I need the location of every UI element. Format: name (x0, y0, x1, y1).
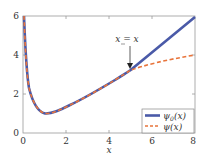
y-tick-2: 2 (13, 89, 19, 99)
y-tick-6: 6 (13, 11, 19, 21)
x-tick-0: 0 (20, 136, 26, 146)
legend-label-psi0: ψ0(x) (163, 111, 186, 122)
series-psi-line (24, 16, 195, 114)
series-psi0-line (24, 16, 195, 114)
legend: ψ0(x) ψ(x) (142, 109, 194, 133)
x-axis-label: x (106, 145, 111, 155)
y-tick-4: 4 (13, 50, 19, 60)
annotation-label: x = x (115, 34, 138, 44)
y-tick-0: 0 (13, 128, 19, 138)
line-chart: 0 2 4 6 0 2 4 6 8 x x = x ψ0(x) ψ(x) (0, 0, 209, 162)
x-tick-6: 6 (149, 136, 155, 146)
legend-label-psi: ψ(x) (163, 122, 183, 132)
x-tick-8: 8 (190, 136, 196, 146)
x-tick-2: 2 (63, 136, 69, 146)
